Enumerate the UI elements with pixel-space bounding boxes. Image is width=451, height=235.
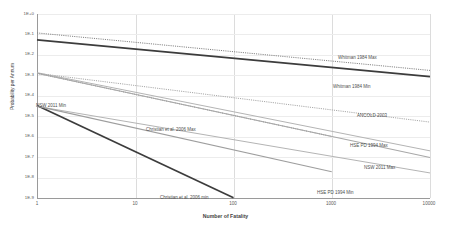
- gridline-horizontal-3: [38, 75, 430, 76]
- gridline-vertical-10000: [430, 14, 431, 198]
- y-tick-7: 1E-7: [2, 155, 34, 159]
- gridline-horizontal-8: [38, 178, 430, 179]
- series-label-7: HSE PD 1994 Max: [350, 144, 388, 149]
- gridline-vertical-100: [234, 14, 235, 198]
- y-tick-2: 1E-2: [2, 52, 34, 56]
- gridline-horizontal-0: [38, 14, 430, 15]
- x-tick-2: 100: [229, 202, 237, 207]
- series-label-6: Christian et al. 2006 min: [160, 196, 209, 201]
- series-label-1: Whitman 1984 Min: [333, 85, 371, 90]
- gridline-horizontal-7: [38, 157, 430, 158]
- y-tick-4: 1E-4: [2, 93, 34, 97]
- risk-fn-curve-chart: 1E+0 1E-1 1E-2 1E-3 1E-4 1E-5 1E-6 1E-7 …: [0, 0, 451, 235]
- x-tick-4: 10000: [423, 202, 436, 207]
- y-tick-0: 1E+0: [2, 12, 34, 16]
- series-label-5: Christian et al. 2006 Max: [146, 128, 196, 133]
- y-tick-3: 1E-3: [2, 73, 34, 77]
- y-tick-6: 1E-6: [2, 134, 34, 138]
- plot-area: [37, 14, 430, 199]
- series-label-3: NSW 2011 Min: [36, 104, 66, 109]
- series-label-4: NSW 2011 Max: [364, 166, 395, 171]
- gridline-vertical-1000: [332, 14, 333, 198]
- gridline-horizontal-4: [38, 96, 430, 97]
- gridline-horizontal-1: [38, 34, 430, 35]
- series-label-8: HSE PD 1994 Min: [317, 191, 354, 196]
- gridline-vertical-10: [136, 14, 137, 198]
- y-tick-8: 1E-8: [2, 175, 34, 179]
- y-tick-1: 1E-1: [2, 32, 34, 36]
- gridline-horizontal-6: [38, 137, 430, 138]
- y-tick-5: 1E-5: [2, 114, 34, 118]
- y-axis-tick-labels: 1E+0 1E-1 1E-2 1E-3 1E-4 1E-5 1E-6 1E-7 …: [0, 0, 37, 199]
- x-tick-1: 10: [132, 202, 137, 207]
- y-tick-9: 1E-9: [2, 196, 34, 200]
- series-label-0: Whitman 1984 Max: [338, 56, 377, 61]
- y-axis-title: Probability per Annum: [10, 49, 15, 125]
- x-tick-0: 1: [36, 202, 39, 207]
- x-tick-3: 1000: [326, 202, 336, 207]
- x-axis-title: Number of Fatality: [0, 214, 451, 219]
- series-label-2: ANCOLD 2003: [357, 114, 387, 119]
